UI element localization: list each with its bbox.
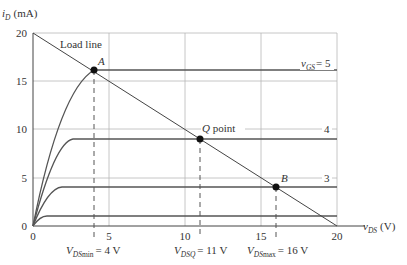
- x-axis-label: vDS(V): [363, 220, 396, 235]
- point-q-marker: [197, 136, 204, 143]
- svg-text:15: 15: [256, 230, 268, 242]
- svg-text:0: 0: [30, 230, 36, 242]
- svg-text:10: 10: [180, 230, 192, 242]
- svg-text:10: 10: [16, 123, 28, 135]
- point-a-label: A: [97, 55, 105, 67]
- point-b-label: B: [281, 172, 288, 184]
- point-a-marker: [91, 67, 98, 74]
- svg-text:0: 0: [22, 220, 28, 232]
- load-line-label: Load line: [60, 38, 102, 50]
- svg-text:15: 15: [16, 75, 28, 87]
- y-axis-label: iD(mA): [2, 7, 38, 22]
- vdsq-annotation: VDSQ= 11 V: [174, 244, 227, 259]
- point-q-label: Q point: [202, 122, 235, 134]
- vds-max-annotation: VDSmax= 16 V: [247, 244, 308, 259]
- svg-text:5: 5: [22, 172, 28, 184]
- vds-min-annotation: VDSmin= 4 V: [66, 244, 121, 259]
- x-tick-labels: 0 5 10 15 20: [30, 230, 343, 242]
- svg-text:20: 20: [16, 27, 28, 39]
- svg-text:5: 5: [106, 230, 112, 242]
- curve-label-vgs-4: 4: [324, 123, 330, 135]
- y-tick-labels: 20 15 10 5 0: [16, 27, 28, 232]
- svg-text:20: 20: [332, 230, 344, 242]
- point-b-marker: [273, 184, 280, 191]
- characteristic-diagram: iD(mA) 20 15 10 5 0 0 5 10 15 20 vDS(V) …: [0, 0, 407, 265]
- curve-label-vgs-3: 3: [324, 172, 330, 184]
